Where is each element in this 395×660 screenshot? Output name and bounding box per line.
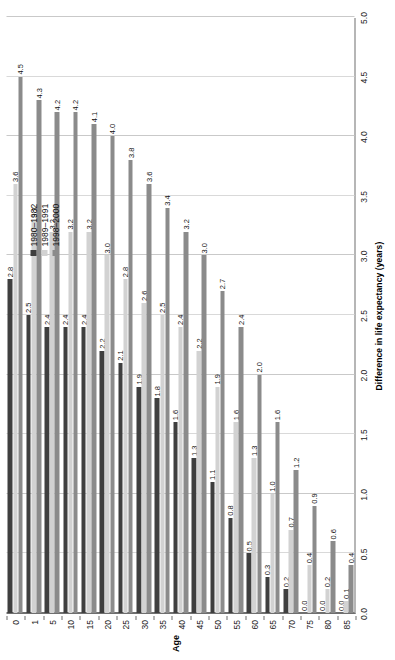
bar-value-label: 2.7 <box>218 279 227 289</box>
value-axis-tick-label: 4.5 <box>358 72 368 84</box>
legend-label: 1980–1982 <box>28 204 38 247</box>
legend-item[interactable]: 1980–1982 <box>28 204 38 257</box>
category-axis-tick-label: 1 <box>29 620 39 625</box>
category-axis-tick-label: 55 <box>231 620 241 629</box>
bar <box>36 100 41 613</box>
axis-tick <box>337 616 338 620</box>
bar-value-label: 0.4 <box>346 553 355 563</box>
bar-group: 1.62.43.2 <box>171 18 189 613</box>
category-axis-tick-label: 20 <box>102 620 112 629</box>
gridline <box>6 16 354 17</box>
bar-group: 0.31.01.6 <box>263 18 281 613</box>
bar-value-label: 3.8 <box>126 148 135 158</box>
bar <box>330 541 335 613</box>
bar <box>31 220 36 613</box>
category-axis-tick-label: 50 <box>212 620 222 629</box>
value-axis-tick-label: 0.0 <box>358 608 368 620</box>
axis-tick <box>116 616 117 620</box>
bar <box>270 494 275 613</box>
legend-item[interactable]: 1989–1991 <box>39 204 49 257</box>
axis-tick <box>98 616 99 620</box>
bar <box>91 124 96 613</box>
bar-value-label: 3.6 <box>144 171 153 181</box>
bar <box>210 482 215 613</box>
legend-item[interactable]: 1998–2000 <box>50 204 60 257</box>
bar <box>68 232 73 613</box>
bar-group: 0.00.10.4 <box>337 18 355 613</box>
axis-tick <box>190 616 191 620</box>
category-axis-tick-label: 10 <box>65 620 75 629</box>
category-axis-tick-label: 25 <box>120 620 130 629</box>
axis-tick <box>6 616 7 620</box>
bar-value-label: 4.2 <box>53 100 62 110</box>
bar <box>26 315 31 613</box>
plot-area: 2.83.64.52.53.34.32.43.24.22.43.24.22.43… <box>6 18 355 614</box>
bar <box>136 387 141 613</box>
bar-group: 0.20.71.2 <box>282 18 300 613</box>
value-axis-tick-label: 1.5 <box>358 429 368 441</box>
bar <box>73 112 78 613</box>
bar-value-label: 4.5 <box>16 64 25 74</box>
value-axis-tick-label: 4.0 <box>358 131 368 143</box>
bar <box>18 77 23 613</box>
bar-value-label: 4.2 <box>71 100 80 110</box>
value-axis-tick-label: 2.5 <box>358 310 368 322</box>
bar-group: 2.23.04.0 <box>98 18 116 613</box>
bar <box>81 327 86 613</box>
bar <box>265 577 270 613</box>
bar <box>110 136 115 613</box>
bar-value-label: 0.6 <box>328 529 337 539</box>
bar <box>238 327 243 613</box>
bar-group: 0.00.40.9 <box>300 18 318 613</box>
bar <box>86 232 91 613</box>
value-axis-tick-label: 0.5 <box>358 548 368 560</box>
bar-group: 2.12.83.8 <box>116 18 134 613</box>
bar <box>275 422 280 613</box>
bar <box>191 458 196 613</box>
axis-tick <box>135 616 136 620</box>
bar-group: 2.43.24.2 <box>61 18 79 613</box>
bar <box>178 327 183 613</box>
bar-group: 0.51.32.0 <box>245 18 263 613</box>
bar-group: 2.43.24.1 <box>79 18 97 613</box>
bar <box>54 112 59 613</box>
axis-tick <box>208 616 209 620</box>
bar-value-label: 2.0 <box>255 362 264 372</box>
category-axis-tick-label: 5 <box>47 620 57 625</box>
category-axis-tick-label: 45 <box>194 620 204 629</box>
bar-value-label: 0.9 <box>310 493 319 503</box>
axis-tick <box>61 616 62 620</box>
bar <box>49 232 54 613</box>
legend-label: 1998–2000 <box>50 204 60 247</box>
category-axis-tick-label: 15 <box>84 620 94 629</box>
bar <box>7 279 12 613</box>
bar <box>201 255 206 613</box>
bar <box>165 208 170 613</box>
bar-value-label: 4.3 <box>34 88 43 98</box>
category-axis-tick-label: 80 <box>322 620 332 629</box>
bar <box>220 291 225 613</box>
bar <box>343 601 348 613</box>
bar-value-label: 4.1 <box>89 112 98 122</box>
axis-tick <box>355 616 356 620</box>
value-axis-tick-label: 3.5 <box>358 191 368 203</box>
bar-group: 2.43.24.2 <box>43 18 61 613</box>
category-axis-tick-label: 35 <box>157 620 167 629</box>
bar <box>118 363 123 613</box>
bar <box>183 232 188 613</box>
bar <box>154 398 159 613</box>
category-axis-tick-label: 60 <box>249 620 259 629</box>
category-axis-tick-label: 65 <box>267 620 277 629</box>
bar-group: 0.00.20.6 <box>318 18 336 613</box>
category-axis-title: Age <box>170 635 180 652</box>
category-axis-tick-label: 70 <box>286 620 296 629</box>
axis-tick <box>43 616 44 620</box>
bar-group: 2.83.64.5 <box>6 18 24 613</box>
bar <box>293 470 298 613</box>
axis-tick <box>171 616 172 620</box>
bar <box>307 565 312 613</box>
bar-group: 1.32.23.0 <box>190 18 208 613</box>
bar <box>146 184 151 613</box>
bar <box>63 327 68 613</box>
axis-tick <box>263 616 264 620</box>
